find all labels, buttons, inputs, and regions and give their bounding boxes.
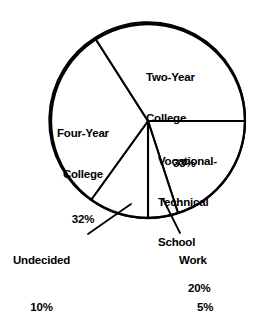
slice-value-four-year-college: 32%: [57, 213, 109, 227]
slice-value-undecided: 10%: [13, 301, 70, 315]
slice-label-undecided: Undecided 10%: [13, 227, 70, 315]
slice-label-vocational-technical-school-line2: Technical: [158, 196, 217, 210]
slice-label-undecided-line1: Undecided: [13, 254, 70, 268]
slice-label-two-year-college-line2: College: [146, 112, 195, 126]
slice-value-work: 5%: [197, 301, 213, 315]
slice-label-two-year-college-line1: Two-Year: [146, 71, 195, 85]
slice-label-work-line1: Work: [179, 254, 213, 268]
slice-label-work: Work 5%: [179, 227, 213, 315]
slice-label-vocational-technical-school-line1: Vocational-: [158, 155, 217, 169]
slice-label-four-year-college-line2: College: [57, 168, 109, 182]
slice-label-four-year-college-line1: Four-Year: [57, 127, 109, 141]
